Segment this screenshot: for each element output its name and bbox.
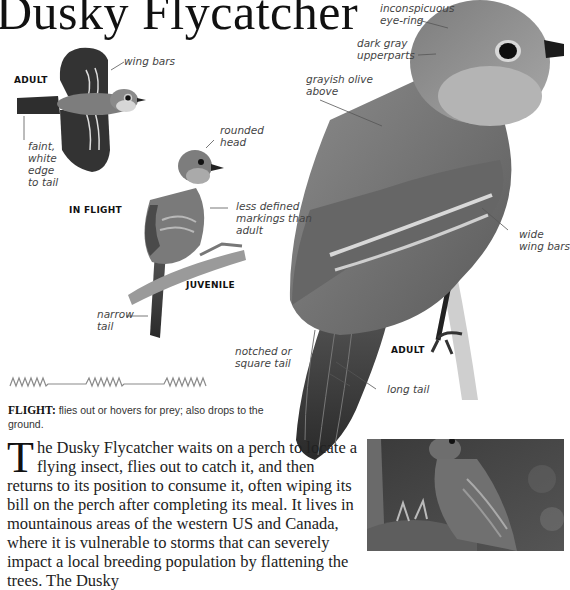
adult-caption: ADULT (391, 345, 425, 355)
label-rounded-head: rounded head (220, 124, 264, 148)
juvenile-caption: JUVENILE (186, 280, 235, 290)
label-eye-ring: inconspicuous eye-ring (380, 2, 454, 26)
upper-wing (60, 48, 108, 100)
label-less-defined: less defined markings than adult (236, 200, 312, 236)
lower-wing (60, 110, 110, 172)
label-faint-white-edge: faint, white edge to tail (28, 140, 58, 188)
flight-tail (17, 96, 60, 114)
label-long-tail: long tail (387, 383, 429, 395)
label-wide-wing-bars: wide wing bars (519, 228, 570, 252)
flight-pattern-diagram (10, 378, 206, 386)
label-dark-gray-upperparts: dark gray upperparts (357, 37, 415, 61)
label-grayish-olive: grayish olive above (306, 73, 373, 97)
juvenile-bird (128, 150, 246, 338)
flight-adult-caption: ADULT (14, 75, 48, 85)
label-wing-bars: wing bars (124, 55, 175, 67)
flight-description: FLIGHT: flies out or hovers for prey; al… (8, 403, 288, 431)
description-text: he Dusky Flycatcher waits on a perch to … (7, 438, 357, 590)
species-description: T he Dusky Flycatcher waits on a perch t… (7, 438, 567, 590)
branch (128, 250, 246, 305)
label-narrow-tail: narrow tail (97, 308, 134, 332)
flight-label: FLIGHT: (8, 404, 56, 416)
drop-cap: T (7, 440, 34, 476)
label-notched-tail: notched or square tail (235, 345, 292, 369)
in-flight-caption: IN FLIGHT (69, 205, 122, 215)
photo-spacer (363, 438, 563, 558)
